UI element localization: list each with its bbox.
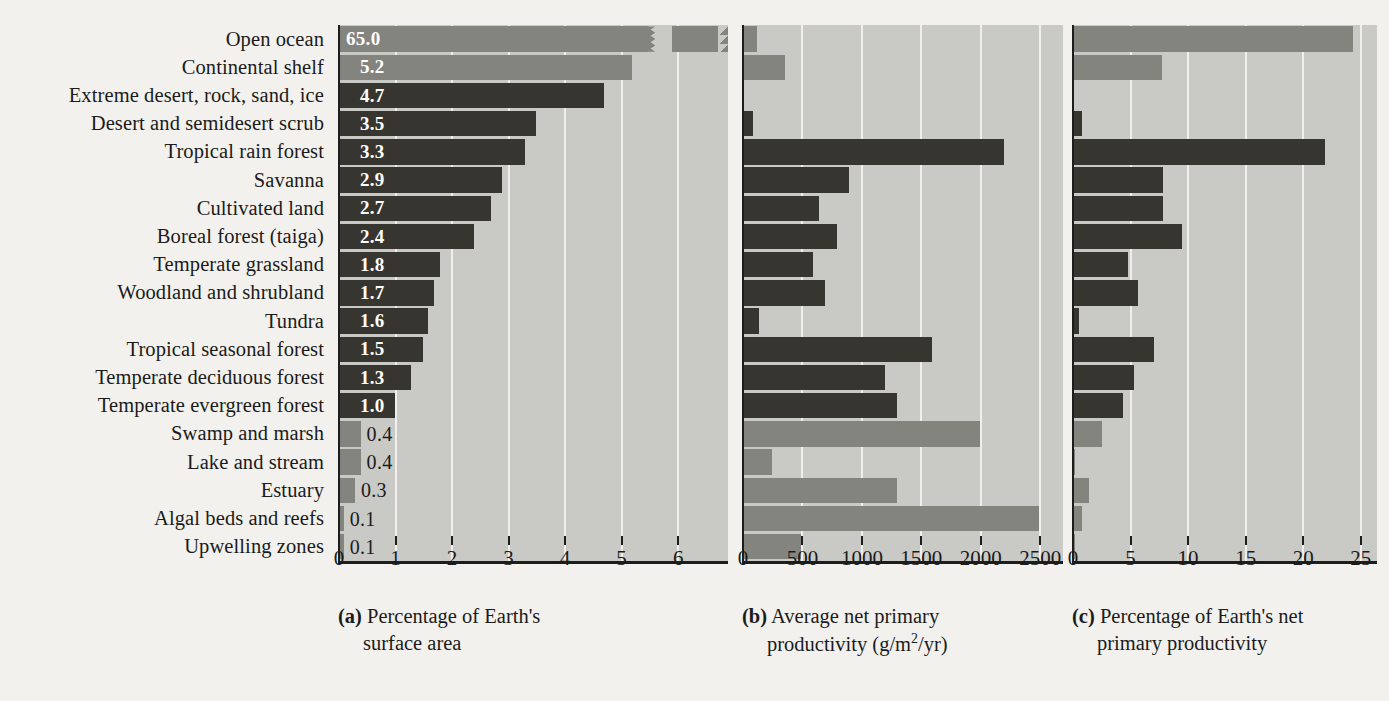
bar-row: 2.9 — [338, 166, 728, 194]
bar-row — [1072, 307, 1377, 335]
bar-row — [1072, 222, 1377, 250]
bar-value-label: 0.4 — [367, 422, 393, 445]
bar-row — [742, 110, 1063, 138]
bars-c — [1072, 25, 1377, 561]
bar — [742, 337, 932, 362]
bar-value-label: 1.3 — [360, 367, 385, 389]
bar — [338, 252, 440, 277]
bar-value-label: 0.4 — [367, 451, 393, 474]
category-label: Temperate evergreen forest — [0, 392, 332, 420]
bar-row: 2.4 — [338, 222, 728, 250]
x-tick — [920, 536, 922, 545]
bar-value-label: 3.3 — [360, 141, 385, 163]
x-tick — [564, 536, 566, 545]
bar-row — [1072, 504, 1377, 532]
bar — [1072, 55, 1162, 80]
panel-letter-b: (b) — [742, 605, 767, 627]
category-label: Cultivated land — [0, 194, 332, 222]
x-tick-label: 500 — [787, 546, 819, 571]
x-tick — [1130, 536, 1132, 545]
bar-row — [1072, 194, 1377, 222]
category-label: Desert and semidesert scrub — [0, 110, 332, 138]
bar-row — [742, 25, 1063, 53]
caption-c-line1: Percentage of Earth's net — [1100, 605, 1303, 627]
bar — [742, 139, 1004, 164]
bar — [742, 393, 897, 418]
panel-letter-a: (a) — [338, 605, 362, 627]
bar-value-label: 1.5 — [360, 338, 385, 360]
x-tick-label: 10 — [1178, 546, 1199, 571]
bar-row — [742, 335, 1063, 363]
category-label: Tundra — [0, 307, 332, 335]
bar — [338, 280, 434, 305]
bar — [742, 252, 813, 277]
panel-letter-c: (c) — [1072, 605, 1095, 627]
x-tick-label: 25 — [1350, 546, 1371, 571]
bar — [742, 196, 819, 221]
bar-row — [1072, 392, 1377, 420]
bar-row — [742, 504, 1063, 532]
bar — [338, 421, 361, 446]
bar — [742, 167, 849, 192]
caption-c-line2: primary productivity — [1072, 630, 1382, 657]
bar — [742, 421, 980, 446]
x-tick-label: 0 — [1068, 546, 1079, 571]
bar-row — [1072, 279, 1377, 307]
bar-row — [742, 53, 1063, 81]
bar-row: 0.1 — [338, 504, 728, 532]
x-tick — [861, 536, 863, 545]
figure-root: Open ocean Continental shelf Extreme des… — [0, 0, 1389, 701]
category-label: Temperate grassland — [0, 251, 332, 279]
x-tick-label: 1500 — [900, 546, 942, 571]
x-tick-label: 3 — [503, 546, 514, 571]
x-tick — [1302, 536, 1304, 545]
x-tick-label: 5 — [1125, 546, 1136, 571]
bar-value-label: 2.9 — [360, 169, 385, 191]
caption-a-line2: surface area — [338, 630, 718, 657]
bar — [338, 478, 355, 503]
bar-row — [1072, 53, 1377, 81]
x-tick-labels-c: 0510152025 — [1072, 546, 1377, 574]
bar — [1072, 224, 1182, 249]
bar-row — [1072, 81, 1377, 109]
bar-value-label: 65.0 — [346, 28, 380, 50]
category-label: Woodland and shrubland — [0, 279, 332, 307]
bar — [1072, 393, 1123, 418]
bar — [1072, 421, 1102, 446]
bar-row — [1072, 25, 1377, 53]
category-label: Temperate deciduous forest — [0, 363, 332, 391]
chart-panel-c — [1072, 25, 1377, 561]
bar-value-label: 2.4 — [360, 226, 385, 248]
x-tick — [677, 536, 679, 545]
bar-row: 1.6 — [338, 307, 728, 335]
x-tick — [1187, 536, 1189, 545]
bar — [1072, 365, 1134, 390]
bar — [742, 506, 1039, 531]
bar — [742, 308, 759, 333]
bar-row: 65.0 — [338, 25, 728, 53]
bar-row — [1072, 251, 1377, 279]
bar — [742, 280, 825, 305]
bars-a: 65.05.24.73.53.32.92.72.41.81.71.61.51.3… — [338, 25, 728, 561]
x-tick — [451, 536, 453, 545]
bar-row — [1072, 166, 1377, 194]
x-tick-label: 20 — [1293, 546, 1314, 571]
x-ticks-a — [338, 536, 728, 546]
bar-row: 1.8 — [338, 251, 728, 279]
bar — [1072, 167, 1163, 192]
caption-b-exponent: 2 — [911, 631, 918, 646]
bar-value-label: 0.3 — [361, 479, 387, 502]
caption-c: (c) Percentage of Earth's net primary pr… — [1072, 603, 1382, 658]
bar-value-label: 2.7 — [360, 197, 385, 219]
bar-row — [742, 279, 1063, 307]
category-label: Boreal forest (taiga) — [0, 222, 332, 250]
bar-value-label: 0.1 — [350, 507, 376, 530]
bar-value-label: 4.7 — [360, 85, 385, 107]
bar — [742, 55, 785, 80]
bar — [338, 224, 474, 249]
caption-a: (a) Percentage of Earth's surface area — [338, 603, 718, 658]
y-axis-b — [742, 25, 744, 561]
bar-row — [1072, 110, 1377, 138]
x-tick — [508, 536, 510, 545]
category-label: Algal beds and reefs — [0, 504, 332, 532]
